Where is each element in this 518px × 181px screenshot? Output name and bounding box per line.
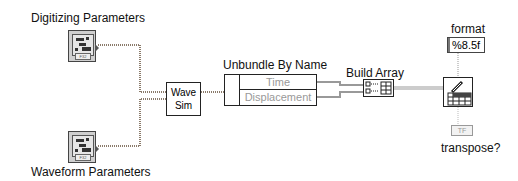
waveform-parameters-control[interactable]: F32 [68, 131, 96, 163]
format-label: format [451, 22, 485, 36]
digitizing-parameters-label: Digitizing Parameters [31, 11, 145, 25]
unbundle-title: Unbundle By Name [223, 58, 327, 72]
write-spreadsheet-node[interactable] [443, 77, 473, 107]
wire-waveform-to-wavesim [98, 99, 166, 146]
wave-sim-line2: Sim [167, 99, 200, 112]
transpose-constant[interactable]: TF [451, 125, 473, 136]
unbundle-input-arrow-icon [225, 75, 240, 105]
build-array-title: Build Array [346, 66, 404, 80]
unbundle-by-name-node[interactable]: Time Displacement [224, 74, 317, 106]
build-array-icon [364, 80, 393, 96]
write-spreadsheet-icon [444, 78, 472, 106]
wire-time [317, 82, 363, 85]
waveform-parameters-label: Waveform Parameters [31, 165, 151, 179]
wire-displacement [317, 92, 363, 97]
wire-digitizing-to-wavesim [98, 45, 166, 92]
unbundle-field-time[interactable]: Time [240, 75, 316, 90]
digitizing-parameters-control[interactable]: F32 [68, 30, 96, 62]
unbundle-field-displacement[interactable]: Displacement [240, 90, 316, 104]
format-constant[interactable]: %8.5f [447, 37, 485, 53]
build-array-node[interactable] [363, 79, 394, 97]
wave-sim-subvi[interactable]: Wave Sim [166, 82, 201, 116]
transpose-label: transpose? [441, 141, 500, 155]
wave-sim-line1: Wave [167, 86, 200, 99]
